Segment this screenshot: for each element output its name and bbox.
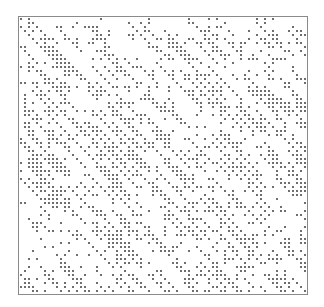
dot-plot-canvas	[19, 17, 307, 294]
dot-plot-frame	[18, 16, 308, 295]
